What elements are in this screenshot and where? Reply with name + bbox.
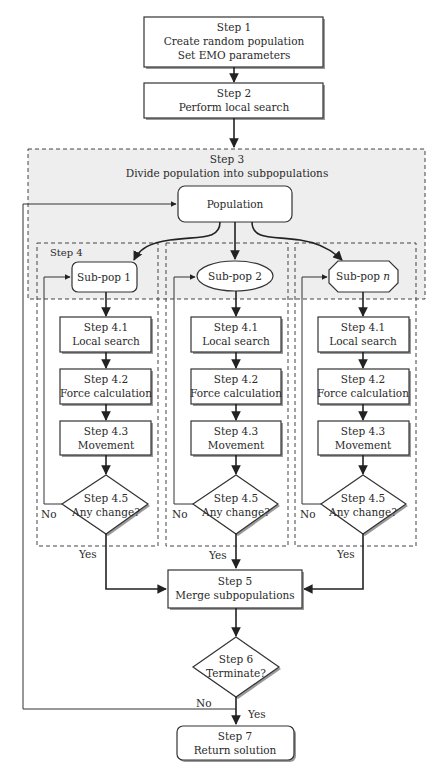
subpop-1-label: Sub-pop 1 <box>77 271 131 283</box>
step45-title: Step 4.5 <box>84 492 128 504</box>
yes-label: Yes <box>336 548 355 560</box>
step43-text: Movement <box>335 439 392 451</box>
step41-text: Local search <box>329 335 397 347</box>
subpop-2-label: Sub-pop 2 <box>208 270 262 282</box>
step7-box: Step 7 Return solution <box>177 726 296 762</box>
emo-flowchart: Step 1 Create random population Set EMO … <box>0 0 447 781</box>
step45-text: Any change? <box>328 506 397 518</box>
subpop-1-node: Sub-pop 1 <box>72 262 137 292</box>
step2-box: Step 2 Perform local search <box>144 83 325 120</box>
step6-line1: Terminate? <box>206 667 266 679</box>
population-label: Population <box>207 198 264 210</box>
step6-title: Step 6 <box>219 653 254 665</box>
step6-no-label: No <box>196 697 212 709</box>
no-label: No <box>300 508 316 520</box>
step43-title: Step 4.3 <box>84 425 128 437</box>
step42-title: Step 4.2 <box>341 373 385 385</box>
step42-title: Step 4.2 <box>84 373 128 385</box>
column-2: Step 4.1 Local search Step 4.2 Force cal… <box>172 277 283 568</box>
step2-line1: Perform local search <box>179 101 290 113</box>
column-3: Step 4.1 Local search Step 4.2 Force cal… <box>300 277 411 589</box>
step1-box: Step 1 Create random population Set EMO … <box>144 17 325 69</box>
step4-title: Step 4 <box>50 247 83 258</box>
subpop-2-node: Sub-pop 2 <box>197 261 273 291</box>
step42-text: Force calculation <box>317 387 409 399</box>
step5-title: Step 5 <box>218 575 252 587</box>
step6-yes-label: Yes <box>247 708 266 720</box>
step5-box: Step 5 Merge subpopulations <box>168 570 304 610</box>
step45-text: Any change? <box>201 506 270 518</box>
step43-title: Step 4.3 <box>341 425 385 437</box>
step41-text: Local search <box>202 335 270 347</box>
step43-text: Movement <box>208 439 265 451</box>
column-1: Step 4.1 Local search Step 4.2 Force cal… <box>41 277 166 589</box>
step2-title: Step 2 <box>217 87 251 99</box>
step6-decision: Step 6 Terminate? <box>193 637 281 699</box>
step1-line2: Set EMO parameters <box>178 49 291 61</box>
step3-line1: Divide population into subpopulations <box>126 167 329 179</box>
subpop-n-label: Sub-pop n <box>336 270 390 282</box>
step3-title: Step 3 <box>210 153 244 165</box>
step41-title: Step 4.1 <box>341 321 385 333</box>
step45-title: Step 4.5 <box>341 492 385 504</box>
step1-line1: Create random population <box>164 35 305 47</box>
population-box: Population <box>178 186 292 222</box>
yes-label: Yes <box>208 549 227 561</box>
no-label: No <box>172 508 188 520</box>
step45-text: Any change? <box>71 506 140 518</box>
step42-text: Force calculation <box>190 387 282 399</box>
no-label: No <box>41 508 57 520</box>
subpop-n-node: Sub-pop n <box>329 261 398 292</box>
step42-title: Step 4.2 <box>214 373 258 385</box>
step7-title: Step 7 <box>218 730 252 742</box>
step43-title: Step 4.3 <box>214 425 258 437</box>
step41-text: Local search <box>72 335 140 347</box>
step7-line1: Return solution <box>194 744 277 756</box>
step45-title: Step 4.5 <box>214 492 258 504</box>
step41-title: Step 4.1 <box>84 321 128 333</box>
step43-text: Movement <box>78 439 135 451</box>
step5-line1: Merge subpopulations <box>175 589 294 601</box>
step42-text: Force calculation <box>60 387 152 399</box>
step1-title: Step 1 <box>217 21 251 33</box>
yes-label: Yes <box>78 548 97 560</box>
step41-title: Step 4.1 <box>214 321 258 333</box>
